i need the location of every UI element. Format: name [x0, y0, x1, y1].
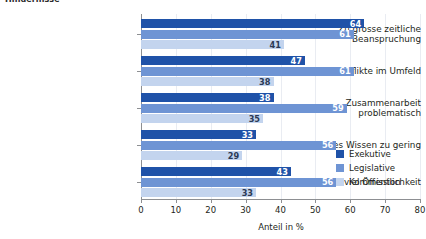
x-tick-label: 70	[380, 205, 391, 215]
bar: 35	[141, 114, 263, 123]
x-tick-label: 0	[138, 205, 143, 215]
bar-value-label: 38	[259, 77, 270, 85]
legend-item[interactable]: Legislative	[336, 161, 401, 175]
bar: 64	[141, 19, 364, 28]
bar: 59	[141, 104, 347, 113]
bar-value-label: 56	[322, 141, 333, 149]
x-tick-label: 30	[240, 205, 251, 215]
x-tick	[281, 199, 282, 203]
bar-value-label: 35	[249, 114, 260, 122]
x-tick	[350, 199, 351, 203]
bar-value-label: 29	[228, 151, 239, 159]
legend-label: Kommission	[349, 177, 401, 187]
bar: 56	[141, 178, 336, 187]
bar-value-label: 33	[242, 188, 253, 196]
x-tick-label: 10	[170, 205, 181, 215]
legend-swatch	[336, 178, 344, 186]
bar: 56	[141, 141, 336, 150]
x-tick	[246, 199, 247, 203]
bar: 33	[141, 188, 256, 197]
legend-label: Legislative	[349, 163, 395, 173]
bar-value-label: 61	[339, 67, 350, 75]
bar-value-label: 41	[270, 40, 281, 48]
x-tick-label: 60	[345, 205, 356, 215]
x-tick-label: 40	[275, 205, 286, 215]
bar: 38	[141, 93, 274, 102]
bar: 47	[141, 56, 305, 65]
x-tick	[141, 199, 142, 203]
x-tick-label: 50	[310, 205, 321, 215]
bar-chart: Hindernisse 01020304050607080 Zu grosse …	[0, 0, 426, 239]
x-tick	[315, 199, 316, 203]
legend-item[interactable]: Kommission	[336, 175, 401, 189]
bar: 29	[141, 151, 242, 160]
bar-value-label: 61	[339, 30, 350, 38]
x-tick	[385, 199, 386, 203]
legend-swatch	[336, 164, 344, 172]
bar-value-label: 64	[350, 19, 361, 27]
bar-value-label: 33	[242, 130, 253, 138]
bar-value-label: 43	[277, 167, 288, 175]
bar-value-label: 38	[259, 93, 270, 101]
bar: 61	[141, 67, 354, 76]
bar: 38	[141, 77, 274, 86]
bar-value-label: 59	[332, 104, 343, 112]
bar: 43	[141, 167, 291, 176]
bar: 41	[141, 40, 284, 49]
legend: ExekutiveLegislativeKommission	[336, 147, 401, 189]
legend-label: Exekutive	[349, 149, 391, 159]
bar: 33	[141, 130, 256, 139]
legend-swatch	[336, 150, 344, 158]
bar: 61	[141, 30, 354, 39]
x-tick	[420, 199, 421, 203]
x-tick	[211, 199, 212, 203]
x-tick-label: 80	[415, 205, 426, 215]
figure-title: Hindernisse	[5, 0, 60, 4]
x-tick	[176, 199, 177, 203]
bar-value-label: 56	[322, 178, 333, 186]
bar-value-label: 47	[291, 56, 302, 64]
legend-item[interactable]: Exekutive	[336, 147, 401, 161]
x-tick-label: 20	[205, 205, 216, 215]
x-axis-title: Anteil in %	[141, 222, 421, 232]
